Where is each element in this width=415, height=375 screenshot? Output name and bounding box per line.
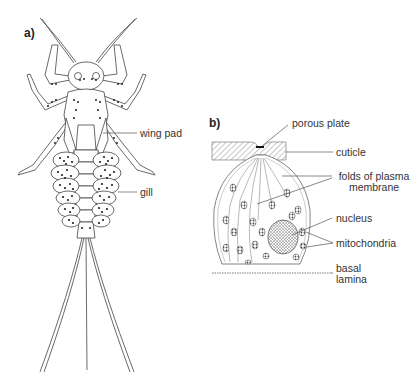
label-basal-line2: lamina [336,274,367,285]
label-cuticle: cuticle [336,147,366,158]
label-wing-pad: wing pad [140,128,182,139]
panel-b-letter: b) [209,118,220,129]
label-folds-line2: membrane [334,182,414,193]
label-mitochondria: mitochondria [336,238,396,249]
label-porous-plate: porous plate [292,118,350,129]
figure-canvas: a) wing pad gill b) porous plate cuticle… [0,0,415,375]
label-nucleus: nucleus [336,213,372,224]
chloride-cell-illustration [212,142,330,273]
label-gill: gill [140,187,153,198]
label-basal-lamina: basal lamina [336,263,367,285]
label-folds-of-plasma-membrane: folds of plasma membrane [334,171,414,193]
mayfly-nymph-illustration [18,18,155,372]
panel-a-letter: a) [24,28,35,39]
